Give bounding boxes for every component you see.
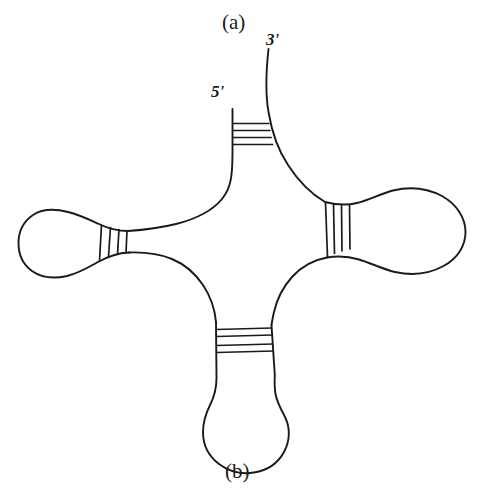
right-arm-rung-2	[334, 204, 335, 254]
bottom-arm-rung-2	[216, 335, 272, 337]
three-prime-terminus-label: 3'	[266, 31, 279, 48]
left-to-bottom-connector	[129, 252, 216, 322]
right-arm-outline	[325, 188, 466, 273]
bottom-arm-rung-4	[217, 351, 274, 353]
left-arm-rung-1	[100, 225, 102, 261]
acceptor-stem-right-rail	[266, 49, 325, 202]
bottom-arm-rung-1	[216, 328, 272, 330]
left-arm-rung-2	[109, 227, 111, 257]
left-arm-rung-3	[118, 229, 120, 255]
panel-label-a: (a)	[222, 12, 245, 33]
right-to-bottom-connector	[272, 258, 328, 326]
right-arm-rung-4	[350, 205, 351, 250]
bottom-arm-rung-3	[216, 344, 273, 346]
acceptor-stem-left-rail	[128, 109, 233, 231]
figure-canvas: (a) (b) 5' 3'	[0, 0, 484, 495]
five-prime-terminus-label: 5'	[211, 83, 224, 100]
left-arm-outline	[19, 210, 130, 278]
right-arm-rung-3	[342, 205, 343, 252]
panel-label-b: (b)	[225, 461, 250, 482]
left-arm-rung-4	[126, 231, 127, 253]
cloverleaf-diagram	[0, 0, 484, 495]
right-arm-rung-1	[326, 202, 328, 257]
